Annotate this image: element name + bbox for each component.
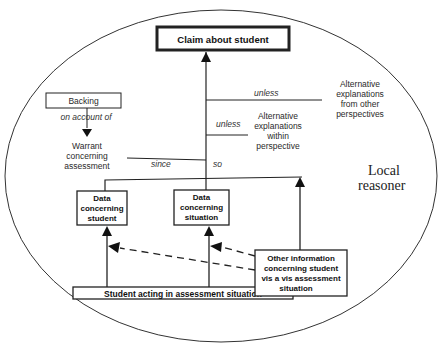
svg-text:Student acting in assessment s: Student acting in assessment situation: [104, 289, 262, 299]
svg-text:Backing: Backing: [68, 96, 99, 106]
svg-text:Data: Data: [193, 193, 211, 202]
svg-text:within: within: [266, 131, 289, 141]
data-connector-line: [105, 177, 302, 191]
svg-text:assessment: assessment: [64, 161, 110, 171]
alt-explanations-other-perspectives: Alternative explanations from other pers…: [336, 79, 384, 119]
backing-box: Backing: [46, 93, 121, 108]
svg-text:concerning: concerning: [66, 151, 108, 161]
svg-text:situation: situation: [279, 284, 312, 293]
svg-text:concerning: concerning: [180, 203, 223, 212]
so-label: so: [213, 159, 222, 169]
svg-text:vis a vis assessment: vis a vis assessment: [261, 274, 341, 283]
local-reasoner-label-line1: Local: [368, 163, 400, 178]
svg-text:Alternative: Alternative: [258, 111, 298, 121]
dashed-arrowhead-student-icon: [108, 242, 120, 253]
since-label: since: [151, 159, 171, 169]
other-info-box: Other information concerning student vis…: [255, 250, 347, 296]
svg-text:Alternative: Alternative: [340, 79, 380, 89]
svg-text:concerning: concerning: [80, 204, 123, 213]
svg-text:Other information: Other information: [267, 254, 335, 263]
svg-text:Data: Data: [93, 194, 111, 203]
warrant-arrowhead-icon: [82, 129, 92, 137]
svg-text:perspective: perspective: [256, 141, 300, 151]
warrant-text: Warrant concerning assessment: [64, 141, 110, 171]
dashed-link-to-data-situation: [222, 247, 255, 256]
claim-arrowhead-icon: [201, 52, 211, 62]
data-situation-arrowhead-icon: [204, 226, 214, 236]
local-reasoner-label-line2: reasoner: [358, 178, 406, 193]
alt-explanations-within-perspective: Alternative explanations within perspect…: [254, 111, 302, 151]
svg-text:student: student: [88, 214, 117, 223]
data-student-box: Data concerning student: [77, 191, 127, 225]
svg-text:from other: from other: [341, 99, 380, 109]
unless-label-1: unless: [254, 88, 279, 98]
dashed-arrowhead-situation-icon: [210, 242, 222, 252]
svg-text:perspectives: perspectives: [336, 109, 384, 119]
svg-text:explanations: explanations: [254, 121, 302, 131]
svg-text:explanations: explanations: [336, 89, 384, 99]
claim-text: Claim about student: [177, 34, 269, 45]
dashed-link-to-data-student: [120, 248, 255, 270]
claim-box: Claim about student: [157, 27, 289, 50]
data-situation-box: Data concerning situation: [174, 190, 229, 225]
data-student-arrowhead-icon: [102, 226, 112, 236]
svg-text:concerning student: concerning student: [264, 264, 339, 273]
svg-text:Warrant: Warrant: [72, 141, 103, 151]
connector-arrowhead-icon: [295, 177, 305, 187]
svg-text:situation: situation: [185, 213, 218, 222]
on-account-of-label: on account of: [60, 112, 113, 122]
toulmin-diagram: Local reasoner Claim about student unles…: [0, 0, 440, 343]
unless-label-2: unless: [216, 119, 241, 129]
